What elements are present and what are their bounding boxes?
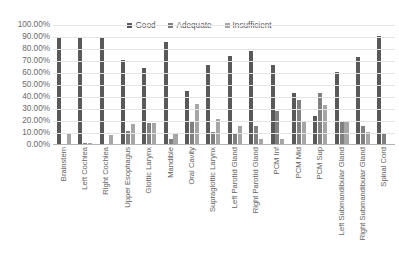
- bar[interactable]: [216, 119, 220, 145]
- y-axis-tick-label: 30.00%: [2, 105, 50, 113]
- x-label-cell: Supraglottic Larynx: [203, 147, 224, 265]
- y-axis-tick-label: 10.00%: [2, 129, 50, 137]
- y-axis-tick-label: 90.00%: [2, 33, 50, 41]
- bar[interactable]: [254, 126, 258, 145]
- y-axis-tick-label: 70.00%: [2, 57, 50, 65]
- bar[interactable]: [228, 56, 232, 145]
- x-axis-tick-label: Spinal Cord: [380, 147, 388, 187]
- x-axis-tick-label: Glottic Larynx: [145, 147, 153, 193]
- bar[interactable]: [323, 105, 327, 145]
- y-axis-tick-label: 60.00%: [2, 69, 50, 77]
- gridline: [53, 85, 395, 86]
- bar[interactable]: [275, 111, 279, 145]
- bar[interactable]: [361, 126, 365, 145]
- gridline: [53, 25, 395, 26]
- bar[interactable]: [100, 37, 104, 145]
- x-axis-tick-label: Right Cochlea: [102, 147, 110, 195]
- gridline: [53, 61, 395, 62]
- gridline: [53, 109, 395, 110]
- x-axis-tick-label: Left Submandibular Gland: [338, 147, 346, 235]
- x-axis-tick-label: Oral Cavity: [188, 147, 196, 185]
- x-label-cell: Upper Esophagus: [117, 147, 138, 265]
- gridline: [53, 121, 395, 122]
- x-label-cell: Spinal Cord: [374, 147, 395, 265]
- plot-area: [53, 25, 395, 145]
- x-axis-tick-label: PCM Sup: [316, 147, 324, 180]
- gridline: [53, 49, 395, 50]
- x-axis-line: [53, 144, 395, 145]
- gridline: [53, 73, 395, 74]
- x-label-cell: Oral Cavity: [181, 147, 202, 265]
- gridline: [53, 133, 395, 134]
- x-label-cell: PCM Inf: [267, 147, 288, 265]
- x-label-cell: PCM Sup: [310, 147, 331, 265]
- y-axis-tick-label: 20.00%: [2, 117, 50, 125]
- x-axis-tick-label: Supraglottic Larynx: [209, 147, 217, 212]
- bar[interactable]: [147, 123, 151, 145]
- y-axis-tick-label: 0.00%: [2, 141, 50, 149]
- x-axis-tick-label: Right Parotid Gland: [252, 147, 260, 213]
- x-label-cell: Glottic Larynx: [139, 147, 160, 265]
- bar[interactable]: [318, 93, 322, 145]
- x-label-cell: Right Parotid Gland: [245, 147, 266, 265]
- x-label-cell: Left Cochlea: [74, 147, 95, 265]
- x-axis-tick-label: PCM Inf: [273, 147, 281, 174]
- bar[interactable]: [185, 91, 189, 145]
- y-axis-tick-label: 50.00%: [2, 81, 50, 89]
- bar[interactable]: [356, 57, 360, 145]
- bar[interactable]: [152, 123, 156, 145]
- x-label-cell: Right Submandibular Gland: [352, 147, 373, 265]
- bar-chart: GoodAdequateInsufficient 0.00%10.00%20.0…: [0, 0, 399, 268]
- x-axis-tick-label: Upper Esophagus: [124, 147, 132, 208]
- bar[interactable]: [78, 37, 82, 145]
- x-axis-tick-label: Left Parotid Gland: [231, 147, 239, 208]
- x-axis-tick-label: Right Submandibular Gland: [359, 147, 367, 240]
- gridline: [53, 37, 395, 38]
- bar[interactable]: [297, 100, 301, 145]
- bar[interactable]: [57, 37, 61, 145]
- y-axis-tick-label: 100.00%: [2, 21, 50, 29]
- x-axis-tick-label: PCM Mid: [295, 147, 303, 178]
- x-axis-labels: BrainstemLeft CochleaRight CochleaUpper …: [53, 147, 395, 265]
- bar[interactable]: [131, 124, 135, 145]
- bar[interactable]: [238, 126, 242, 145]
- x-axis-tick-label: Brainstem: [60, 147, 68, 181]
- bar[interactable]: [164, 42, 168, 145]
- x-axis-tick-label: Left Cochlea: [81, 147, 89, 190]
- x-axis-tick-label: Mandible: [167, 147, 175, 178]
- gridline: [53, 97, 395, 98]
- bar[interactable]: [292, 93, 296, 145]
- y-axis-tick-label: 80.00%: [2, 45, 50, 53]
- x-label-cell: Brainstem: [53, 147, 74, 265]
- bar[interactable]: [377, 36, 381, 145]
- x-label-cell: PCM Mid: [288, 147, 309, 265]
- y-axis: 0.00%10.00%20.00%30.00%40.00%50.00%60.00…: [2, 21, 50, 145]
- x-label-cell: Mandible: [160, 147, 181, 265]
- x-label-cell: Left Submandibular Gland: [331, 147, 352, 265]
- x-label-cell: Right Cochlea: [96, 147, 117, 265]
- y-axis-tick-label: 40.00%: [2, 93, 50, 101]
- x-label-cell: Left Parotid Gland: [224, 147, 245, 265]
